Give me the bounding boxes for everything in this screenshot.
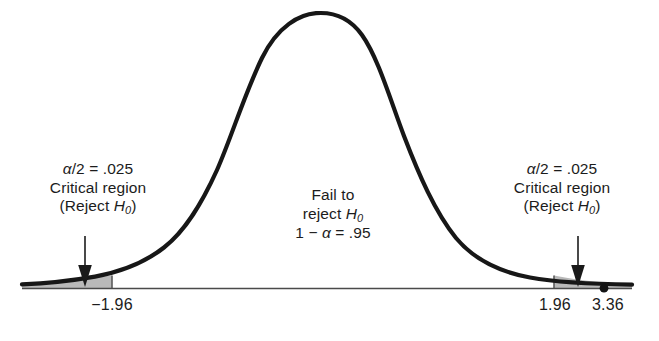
left-reject-line: (Reject H0): [18, 197, 178, 217]
left-reject-open: (Reject: [60, 197, 114, 214]
right-reject-close: ): [595, 197, 600, 214]
left-reject-h: H: [114, 197, 125, 214]
tick-label-negative-critical: −1.96: [72, 296, 152, 314]
left-alpha-symbol: α: [63, 160, 72, 177]
right-alpha-symbol: α: [527, 160, 536, 177]
right-critical-region-label: α/2 = .025 Critical region (Reject H0): [482, 160, 642, 217]
bell-curve: [22, 13, 632, 285]
center-reject-prefix: reject: [303, 205, 346, 222]
right-reject-h: H: [578, 197, 589, 214]
left-reject-subscript: 0: [125, 204, 131, 216]
center-line-3: 1 − α = .95: [258, 224, 408, 243]
right-alpha-line: α/2 = .025: [482, 160, 642, 179]
center-h-subscript: 0: [357, 212, 363, 224]
left-critical-region-text: Critical region: [18, 179, 178, 198]
center-confidence-value: = .95: [331, 224, 371, 241]
left-alpha-value: /2 = .025: [72, 160, 134, 177]
fail-to-reject-label: Fail to reject H0 1 − α = .95: [258, 186, 408, 243]
test-statistic-point: [600, 284, 609, 293]
right-reject-subscript: 0: [589, 204, 595, 216]
center-line-1: Fail to: [258, 186, 408, 205]
tick-label-test-statistic: 3.36: [578, 296, 638, 314]
right-reject-open: (Reject: [524, 197, 578, 214]
left-reject-close: ): [131, 197, 136, 214]
right-critical-region-text: Critical region: [482, 179, 642, 198]
tick-label-positive-critical: 1.96: [525, 296, 585, 314]
center-line-2: reject H0: [258, 205, 408, 225]
left-alpha-line: α/2 = .025: [18, 160, 178, 179]
right-alpha-value: /2 = .025: [536, 160, 598, 177]
normal-distribution-figure: α/2 = .025 Critical region (Reject H0) α…: [0, 0, 659, 341]
center-alpha-symbol: α: [322, 224, 331, 241]
right-reject-line: (Reject H0): [482, 197, 642, 217]
left-critical-region-label: α/2 = .025 Critical region (Reject H0): [18, 160, 178, 217]
center-confidence-prefix: 1 −: [295, 224, 322, 241]
center-h: H: [346, 205, 357, 222]
